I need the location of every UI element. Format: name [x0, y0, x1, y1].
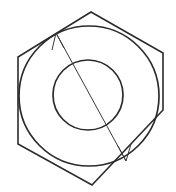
figure-background — [0, 0, 176, 192]
figure-root — [0, 0, 176, 192]
hex-nut-diagram — [0, 0, 176, 192]
